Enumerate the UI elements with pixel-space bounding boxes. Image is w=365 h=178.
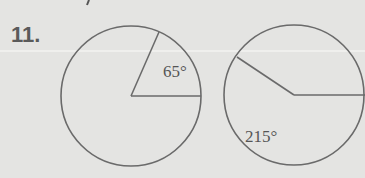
- angle-label-65: 65°: [163, 62, 187, 81]
- circle-figure-65: 65°: [61, 26, 201, 166]
- figures: 65° 215°: [0, 0, 365, 178]
- circle-figure-215: 215°: [224, 25, 365, 165]
- angle-label-215: 215°: [245, 127, 277, 146]
- text-fragment: [87, 0, 89, 5]
